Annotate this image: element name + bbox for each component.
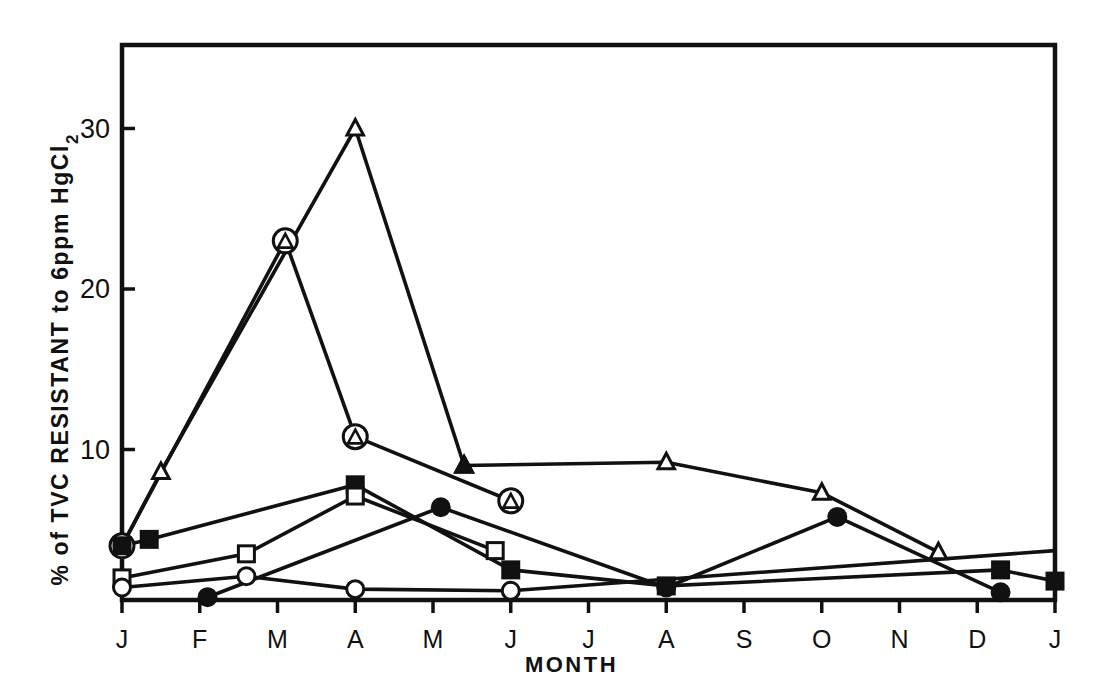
marker-open-circle xyxy=(238,568,255,585)
marker-open-square xyxy=(487,543,503,559)
series-line-open-triangle xyxy=(122,129,938,553)
x-tick-label: J xyxy=(582,625,595,653)
marker-circled-triangle xyxy=(273,229,297,253)
y-tick-label: 30 xyxy=(80,114,110,144)
marker-filled-square xyxy=(141,531,158,548)
line-chart: 102030 JFMAMJJASONDJ MONTH% of TVC RESIS… xyxy=(0,0,1113,687)
x-tick-label: D xyxy=(968,625,986,653)
y-axis-title-subscript: 2 xyxy=(63,135,82,144)
marker-open-circle xyxy=(114,579,131,596)
series-line-open-circle xyxy=(122,576,511,590)
marker-circled-triangle xyxy=(499,489,523,513)
series-line-circled-triangle xyxy=(122,241,511,546)
x-tick-label: J xyxy=(505,625,518,653)
x-tick-label: J xyxy=(1049,625,1062,653)
marker-filled-square xyxy=(992,561,1009,578)
x-tick-label: N xyxy=(890,625,908,653)
figure-container: 102030 JFMAMJJASONDJ MONTH% of TVC RESIS… xyxy=(0,0,1113,687)
x-tick-label: M xyxy=(267,625,288,653)
axis-titles: MONTH% of TVC RESISTANT to 6ppm HgCl2 xyxy=(47,135,618,677)
marker-filled-square xyxy=(1047,573,1064,590)
marker-open-triangle xyxy=(658,453,675,469)
x-tick-label: S xyxy=(736,625,753,653)
x-axis-tick-labels: JFMAMJJASONDJ xyxy=(116,625,1062,653)
x-tick-label: J xyxy=(116,625,129,653)
marker-filled-square xyxy=(502,561,519,578)
marker-filled-circle xyxy=(657,579,675,597)
x-tick-label: F xyxy=(192,625,207,653)
series-markers xyxy=(110,120,1064,607)
x-tick-label: O xyxy=(812,625,831,653)
x-axis-title: MONTH xyxy=(525,652,618,677)
marker-filled-circle xyxy=(828,508,846,526)
marker-filled-square xyxy=(114,537,131,554)
marker-open-circle xyxy=(502,582,519,599)
marker-open-triangle xyxy=(930,543,947,559)
y-tick-label: 20 xyxy=(80,274,110,304)
marker-filled-circle xyxy=(432,498,450,516)
y-axis-title: % of TVC RESISTANT to 6ppm HgCl2 xyxy=(47,135,82,586)
plot-frame xyxy=(122,45,1055,600)
x-tick-label: A xyxy=(347,625,364,653)
marker-open-square xyxy=(347,488,363,504)
series-lines xyxy=(122,129,1055,598)
marker-filled-circle xyxy=(199,588,217,606)
marker-open-triangle xyxy=(347,120,364,136)
x-tick-label: A xyxy=(658,625,675,653)
y-axis-tick-labels: 102030 xyxy=(80,114,110,465)
marker-open-triangle xyxy=(814,484,831,500)
y-axis-title-text: % of TVC RESISTANT to 6ppm HgCl2 xyxy=(47,135,82,586)
marker-circled-triangle xyxy=(343,425,367,449)
y-tick-label: 10 xyxy=(80,435,110,465)
marker-open-square xyxy=(238,546,254,562)
marker-filled-circle xyxy=(992,583,1010,601)
series-line-filled-square xyxy=(122,485,1055,586)
marker-open-circle xyxy=(347,581,364,598)
x-tick-label: M xyxy=(423,625,444,653)
